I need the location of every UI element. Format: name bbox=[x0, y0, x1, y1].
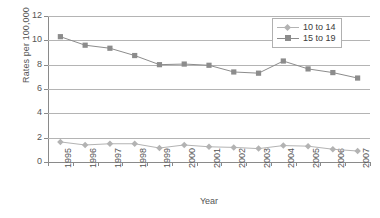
legend-label: 10 to 14 bbox=[303, 23, 336, 32]
data-point bbox=[182, 61, 187, 66]
legend: 10 to 1415 to 19 bbox=[272, 18, 342, 48]
legend-swatch-icon bbox=[277, 23, 299, 32]
y-tick-label: 0 bbox=[22, 157, 42, 166]
data-point bbox=[281, 58, 286, 63]
y-tick-label: 4 bbox=[22, 108, 42, 117]
data-point bbox=[181, 142, 188, 149]
y-tick-label: 8 bbox=[22, 60, 42, 69]
legend-item-1[interactable]: 15 to 19 bbox=[277, 33, 336, 44]
data-point bbox=[58, 34, 63, 39]
data-point bbox=[305, 143, 312, 150]
data-point bbox=[206, 144, 213, 151]
line-chart: Rates per 100,000 024681012 199519961997… bbox=[0, 0, 380, 218]
data-point bbox=[255, 145, 262, 152]
y-tick-label: 12 bbox=[22, 11, 42, 20]
data-point bbox=[156, 145, 163, 152]
data-point bbox=[280, 142, 287, 149]
legend-item-0[interactable]: 10 to 14 bbox=[277, 22, 336, 33]
data-point bbox=[57, 139, 64, 146]
data-point bbox=[330, 70, 335, 75]
x-axis-title: Year bbox=[48, 196, 370, 206]
y-tick-label: 6 bbox=[22, 84, 42, 93]
data-point bbox=[305, 66, 310, 71]
y-tick-label: 10 bbox=[22, 35, 42, 44]
data-point bbox=[355, 75, 360, 80]
data-point bbox=[330, 146, 337, 153]
data-point bbox=[206, 63, 211, 68]
data-point bbox=[256, 71, 261, 76]
data-point bbox=[231, 144, 238, 151]
data-point bbox=[107, 140, 114, 147]
legend-label: 15 to 19 bbox=[303, 34, 336, 43]
y-tick-label: 2 bbox=[22, 133, 42, 142]
data-point bbox=[82, 142, 89, 149]
data-point bbox=[131, 140, 138, 147]
x-tick-mark bbox=[48, 162, 49, 166]
data-point bbox=[157, 62, 162, 67]
data-point bbox=[83, 43, 88, 48]
legend-swatch-icon bbox=[277, 34, 299, 43]
data-point bbox=[132, 53, 137, 58]
data-point bbox=[107, 46, 112, 51]
data-point bbox=[354, 148, 361, 155]
data-point bbox=[231, 69, 236, 74]
